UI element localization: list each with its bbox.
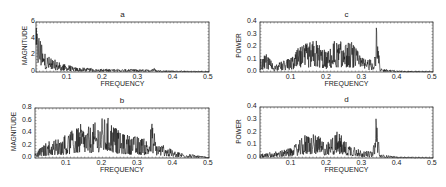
spectrum-line (260, 119, 433, 158)
x-tick-label: 0.2 (97, 73, 107, 80)
x-axis-label: FREQUENCY (82, 166, 162, 173)
x-tick-label: 0.5 (203, 159, 213, 166)
y-axis-label: MAGNITUDE (21, 16, 28, 76)
y-tick-label: 6 (31, 17, 35, 24)
x-tick-label: 0.3 (356, 73, 366, 80)
x-tick-label: 0.3 (356, 159, 366, 166)
y-tick-label: 0.3 (247, 115, 257, 122)
y-tick-label: 0.2 (247, 42, 257, 49)
x-tick-label: 0.3 (132, 159, 142, 166)
x-tick-label: 0.4 (167, 159, 177, 166)
y-tick-label: 0.6 (22, 116, 32, 123)
panel-d: dPOWERFREQUENCY0.10.20.30.40.50.00.10.20… (223, 86, 446, 187)
x-tick-label: 0.4 (392, 159, 402, 166)
x-tick-label: 0.5 (203, 73, 213, 80)
x-tick-label: 0.2 (321, 73, 331, 80)
y-tick-label: 0.8 (22, 103, 32, 110)
x-tick-label: 0.3 (132, 73, 142, 80)
x-tick-label: 0.4 (168, 73, 178, 80)
y-tick-label: 0.2 (22, 141, 32, 148)
y-tick-label: 0.1 (247, 55, 257, 62)
y-axis-label: POWER (235, 16, 242, 76)
y-tick-label: 0.0 (22, 153, 32, 160)
x-tick-label: 0.2 (96, 159, 106, 166)
y-tick-label: 0.0 (247, 67, 257, 74)
y-axis-label: POWER (235, 101, 242, 161)
y-tick-label: 0.4 (247, 17, 257, 24)
y-axis-label: MAGNITUDE (10, 102, 17, 162)
panel-title: a (113, 10, 133, 19)
x-tick-label: 0.1 (61, 159, 71, 166)
x-tick-label: 0.4 (392, 73, 402, 80)
y-tick-label: 0 (31, 67, 35, 74)
panel-c: cPOWERFREQUENCY0.10.20.30.40.50.00.10.20… (223, 0, 446, 93)
x-tick-label: 0.1 (286, 73, 296, 80)
panel-b: bMAGNITUDEFREQUENCY0.10.20.30.40.50.00.2… (0, 86, 223, 187)
panel-title: c (337, 10, 357, 19)
spectrum-line (260, 28, 433, 72)
x-tick-label: 0.5 (427, 73, 437, 80)
spectrum-line (36, 28, 209, 72)
x-tick-label: 0.2 (321, 159, 331, 166)
axis-ticks (36, 22, 209, 72)
plot-frame (36, 22, 209, 72)
panel-title: b (112, 96, 132, 105)
y-tick-label: 0.4 (247, 102, 257, 109)
panel-a: aMAGNITUDEFREQUENCY0.10.20.30.40.50246 (0, 0, 223, 93)
x-axis-label: FREQUENCY (307, 166, 387, 173)
y-tick-label: 2 (31, 50, 35, 57)
x-tick-label: 0.5 (427, 159, 437, 166)
y-tick-label: 0.1 (247, 140, 257, 147)
y-tick-label: 0.4 (22, 128, 32, 135)
y-tick-label: 4 (31, 34, 35, 41)
y-tick-label: 0.2 (247, 128, 257, 135)
spectrum-line (35, 118, 209, 158)
y-tick-label: 0.3 (247, 30, 257, 37)
panel-title: d (337, 95, 357, 104)
x-tick-label: 0.1 (62, 73, 72, 80)
x-tick-label: 0.1 (286, 159, 296, 166)
y-tick-label: 0.0 (247, 153, 257, 160)
